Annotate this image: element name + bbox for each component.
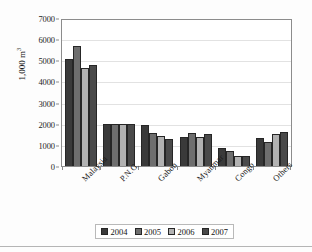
page-bottom-rule bbox=[0, 246, 312, 247]
bar[interactable] bbox=[89, 65, 97, 166]
legend-swatch bbox=[168, 228, 175, 235]
x-axis-category-slot: Congo bbox=[215, 168, 253, 214]
bar[interactable] bbox=[180, 137, 188, 166]
y-axis-title-exponent: 3 bbox=[15, 48, 22, 51]
legend-label: 2004 bbox=[111, 227, 128, 237]
legend-item[interactable]: 2005 bbox=[135, 227, 162, 237]
x-axis-category-slot: Malaysia bbox=[62, 168, 100, 214]
legend-swatch bbox=[101, 228, 108, 235]
x-axis-categories: MalaysiaP.N.G.GabonMyanmarCongoOthers bbox=[62, 168, 291, 214]
y-axis-tick-label: 0 bbox=[51, 162, 55, 172]
bar[interactable] bbox=[141, 125, 149, 166]
bar-group bbox=[215, 20, 253, 166]
legend-swatch bbox=[135, 228, 142, 235]
bar[interactable] bbox=[81, 68, 89, 166]
bar[interactable] bbox=[157, 136, 165, 166]
y-axis-tick-label: 4000 bbox=[38, 77, 55, 87]
bar[interactable] bbox=[256, 138, 264, 166]
y-axis-tick-label: 2000 bbox=[38, 120, 55, 130]
x-axis-tick-mark bbox=[138, 167, 139, 170]
x-axis-tick-mark bbox=[177, 167, 178, 170]
y-axis-tick-mark bbox=[56, 61, 59, 62]
y-axis-tick-mark bbox=[56, 40, 59, 41]
bar[interactable] bbox=[65, 59, 73, 166]
bar[interactable] bbox=[119, 124, 127, 166]
y-axis-ticks: 01000200030004000500060007000 bbox=[26, 19, 59, 167]
bar[interactable] bbox=[73, 46, 81, 166]
y-axis-tick-label: 7000 bbox=[38, 14, 55, 24]
legend-label: 2005 bbox=[144, 227, 161, 237]
chart-figure: 1,000 m3 01000200030004000500060007000 M… bbox=[0, 0, 312, 252]
bar[interactable] bbox=[234, 156, 242, 166]
x-axis-tick-mark bbox=[215, 167, 216, 170]
bar-group bbox=[138, 20, 176, 166]
legend-swatch bbox=[202, 228, 209, 235]
x-axis-tick-mark bbox=[290, 167, 291, 170]
bar[interactable] bbox=[188, 133, 196, 166]
x-axis-category-slot: P.N.G. bbox=[100, 168, 138, 214]
y-axis-tick-label: 6000 bbox=[38, 35, 55, 45]
legend: 2004200520062007 bbox=[95, 224, 234, 239]
x-axis-category-slot: Gabon bbox=[138, 168, 176, 214]
y-axis-tick-mark bbox=[56, 103, 59, 104]
bar[interactable] bbox=[264, 142, 272, 166]
bar[interactable] bbox=[226, 151, 234, 166]
bar-group bbox=[253, 20, 291, 166]
y-axis-tick-label: 1000 bbox=[38, 141, 55, 151]
y-axis-tick-mark bbox=[56, 167, 59, 168]
y-axis-tick-mark bbox=[56, 19, 59, 20]
legend-item[interactable]: 2006 bbox=[168, 227, 195, 237]
legend-item[interactable]: 2004 bbox=[101, 227, 128, 237]
legend-label: 2007 bbox=[211, 227, 228, 237]
y-axis-tick-label: 5000 bbox=[38, 56, 55, 66]
bars-layer bbox=[62, 20, 291, 166]
x-axis-category-slot: Myanmar bbox=[177, 168, 215, 214]
bar[interactable] bbox=[272, 134, 280, 166]
bar[interactable] bbox=[149, 133, 157, 166]
x-axis-category-slot: Others bbox=[253, 168, 291, 214]
x-axis-tick-mark bbox=[253, 167, 254, 170]
y-axis-tick-mark bbox=[56, 145, 59, 146]
y-axis-tick-mark bbox=[56, 82, 59, 83]
legend-item[interactable]: 2007 bbox=[202, 227, 229, 237]
y-axis-tick-label: 3000 bbox=[38, 99, 55, 109]
legend-label: 2006 bbox=[178, 227, 195, 237]
bar[interactable] bbox=[196, 137, 204, 166]
y-axis-tick-mark bbox=[56, 124, 59, 125]
x-axis-tick-mark bbox=[62, 167, 63, 170]
bar-group bbox=[100, 20, 138, 166]
bar-group bbox=[62, 20, 100, 166]
bar[interactable] bbox=[111, 124, 119, 166]
x-axis-tick-mark bbox=[100, 167, 101, 170]
bar-group bbox=[177, 20, 215, 166]
